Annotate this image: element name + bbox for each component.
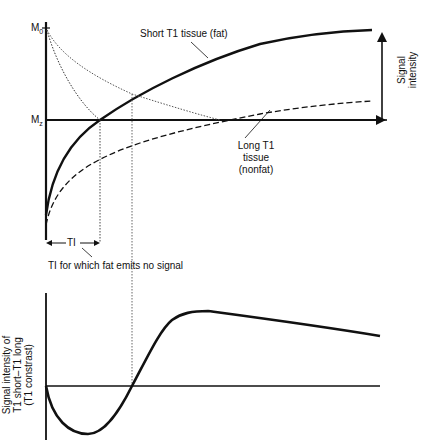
ti-left-arrow-icon xyxy=(46,240,52,246)
t1-contrast-curve xyxy=(46,311,380,434)
short-t1-curve xyxy=(46,30,372,215)
diagram-canvas xyxy=(0,0,427,448)
ti-annotation: TI for which fat emits no signal xyxy=(48,260,183,272)
short-t1-leader xyxy=(191,42,208,58)
m0-label: M0 xyxy=(31,22,43,38)
mz-label: Mz xyxy=(31,114,43,130)
signal-arrow-head-icon xyxy=(377,32,387,42)
ti-annotation-leader xyxy=(82,248,92,257)
ti-right-arrow-icon xyxy=(94,240,100,246)
fat-decay-dotted xyxy=(47,30,100,120)
signal-intensity-label: Signal intensity xyxy=(396,40,420,100)
nonfat-decay-dotted xyxy=(47,30,220,120)
short-t1-label: Short T1 tissue (fat) xyxy=(140,28,228,40)
t1-contrast-y-label: Signal intensity of T1 short–T1 long (T1… xyxy=(1,320,37,430)
ti-label: TI xyxy=(67,237,76,249)
long-t1-label: Long T1 tissue (nonfat) xyxy=(226,140,286,176)
